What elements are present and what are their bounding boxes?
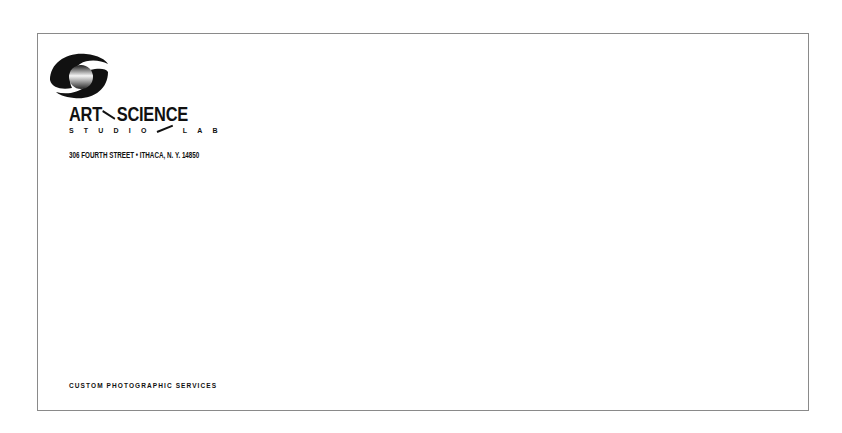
envelope — [37, 33, 809, 411]
slash-divider-icon — [102, 104, 117, 124]
brand-name-science: SCIENCE — [117, 103, 188, 125]
slash-divider-icon — [157, 127, 175, 135]
brand-sub-studio: STUDIO — [69, 127, 157, 134]
brand-sub-lab: LAB — [183, 127, 228, 134]
swirl-sphere-logo-icon — [48, 50, 110, 102]
return-address: 306 FOURTH STREET • ITHACA, N. Y. 14850 — [69, 150, 199, 160]
brand-subline: STUDIOLAB — [69, 127, 228, 135]
tagline: CUSTOM PHOTOGRAPHIC SERVICES — [69, 382, 217, 389]
brand-wordmark: ARTSCIENCE — [69, 104, 188, 124]
brand-name-art: ART — [69, 103, 102, 125]
